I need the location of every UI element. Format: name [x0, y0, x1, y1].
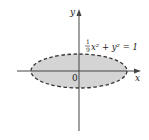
y-axis-arrow-icon	[77, 9, 82, 16]
equation-frac-denominator: 9	[86, 46, 90, 53]
y-axis-label: y	[69, 7, 76, 17]
equation-frac-numerator: 1	[86, 38, 90, 45]
x-axis-label: x	[135, 73, 140, 83]
ellipse-diagram: y x 0 1 9 x² + y² = 1	[0, 0, 149, 140]
origin-label: 0	[72, 73, 78, 83]
equation-text: x² + y² = 1	[91, 42, 138, 52]
